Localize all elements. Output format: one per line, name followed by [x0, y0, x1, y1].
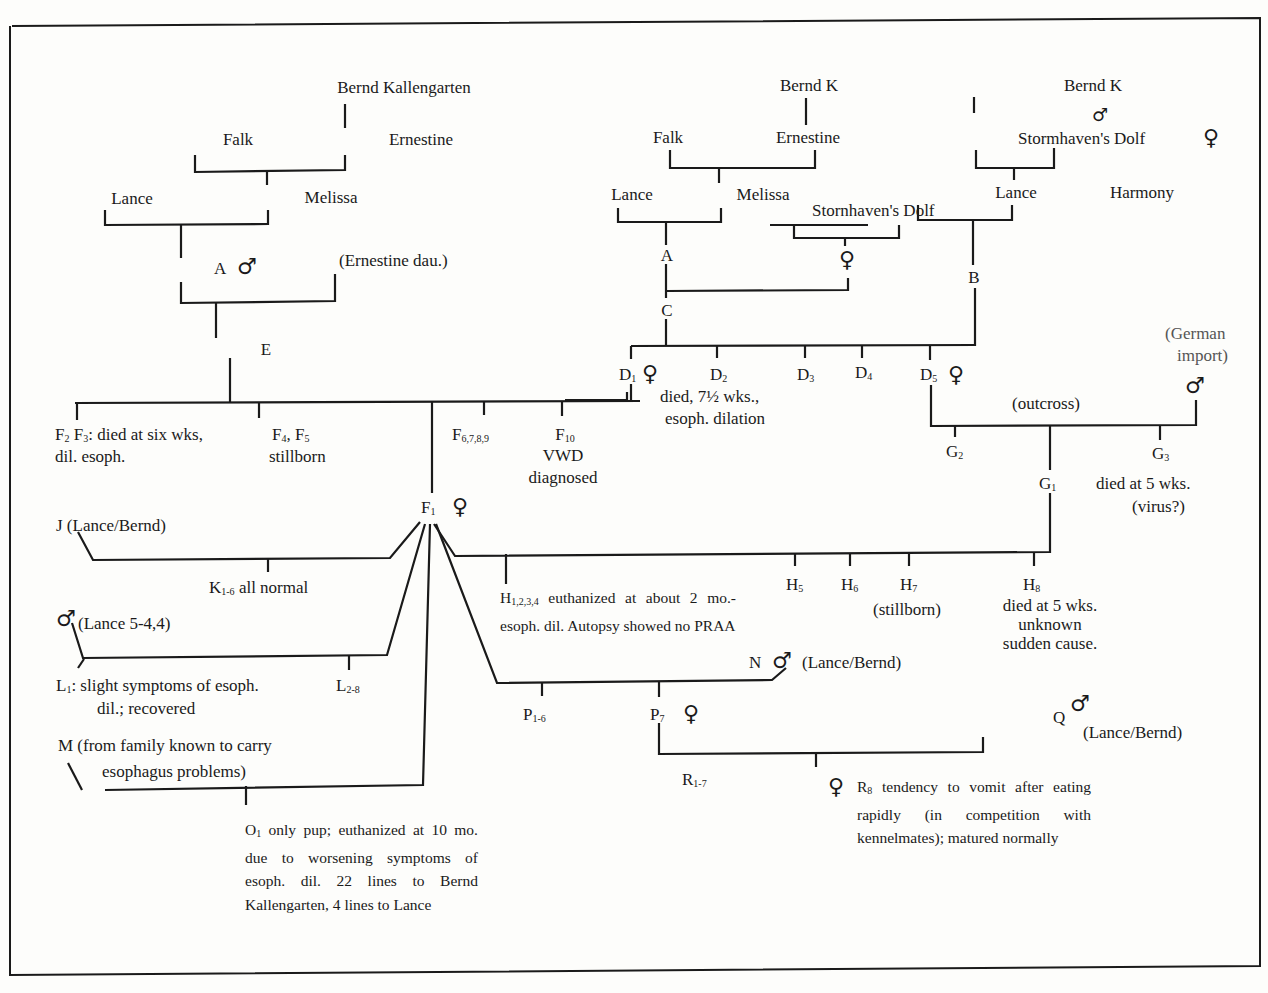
f10-note: VWD [543, 446, 584, 466]
g3-note: died at 5 wks. [1096, 474, 1190, 494]
node-lance-right: Lance [995, 183, 1037, 203]
node-g3: G3 [1152, 444, 1169, 468]
node-r1-7: R1-7 [682, 770, 707, 794]
node-g2: G2 [946, 442, 963, 466]
node-a-left: A [214, 259, 226, 279]
node-p7: P7 [650, 705, 664, 729]
node-f4-f5: F4, F5 [272, 425, 309, 449]
node-d5: D5 [920, 365, 937, 389]
female-icon: ♀ [642, 363, 658, 385]
male-icon: ♂ [237, 256, 257, 278]
mate-n: N [749, 653, 761, 673]
f2-f3-note: dil. esoph. [55, 447, 125, 467]
node-h7: H7 [900, 575, 917, 599]
node-ernestine-daughter: (Ernestine dau.) [339, 251, 448, 271]
node-h6: H6 [841, 575, 858, 599]
node-h1-4: H1,2,3,4 euthanized at about 2 mo.- esop… [500, 586, 736, 637]
node-lance-middle: Lance [611, 185, 653, 205]
node-a-middle: A [661, 246, 673, 266]
male-icon: ♂ [56, 608, 76, 630]
female-icon: ♀ [839, 249, 855, 271]
node-g1: G1 [1039, 474, 1056, 498]
german-import-label: import) [1177, 346, 1228, 366]
node-d3: D3 [797, 365, 814, 389]
node-stormhavens-dolf: Stormhaven's Dolf [1018, 129, 1145, 149]
german-import-label: (German [1165, 324, 1225, 344]
node-l2-8: L2-8 [336, 676, 360, 700]
female-icon: ♀ [452, 496, 468, 518]
node-stornhavens-dolf: Stornhaven's Dolf [812, 201, 935, 221]
node-f6-9: F6,7,8,9 [452, 425, 489, 449]
node-b: B [968, 268, 979, 288]
outcross-label: (outcross) [1012, 394, 1080, 414]
female-icon: ♀ [948, 364, 964, 386]
node-d4: D4 [855, 363, 872, 387]
node-c: C [661, 301, 672, 321]
mate-m: M (from family known to carry [58, 736, 272, 756]
d2-note: esoph. dilation [665, 409, 765, 429]
node-d1: D1 [619, 365, 636, 389]
node-ernestine-left: Ernestine [389, 130, 453, 150]
node-f2-f3: F2 F3: died at six wks, [55, 425, 203, 449]
node-e: E [261, 340, 271, 360]
mate-j: J (Lance/Bernd) [56, 516, 166, 536]
female-icon: ♀ [683, 703, 699, 725]
mate-n-note: (Lance/Bernd) [802, 653, 901, 673]
node-k1-6: K1-6 all normal [209, 578, 308, 602]
node-h5: H5 [786, 575, 803, 599]
node-p1-6: P1-6 [523, 705, 546, 729]
mate-q-note: (Lance/Bernd) [1083, 723, 1182, 743]
mate-m: esophagus problems) [102, 762, 246, 782]
node-r8: R8 tendency to vomit after eating rapidl… [857, 775, 1091, 850]
h7-note: (stillborn) [873, 600, 941, 620]
node-ernestine-middle: Ernestine [776, 128, 840, 148]
female-icon: ♀ [1203, 127, 1219, 149]
node-o1: O1 only pup; euthanized at 10 mo. due to… [245, 818, 478, 916]
h8-note: unknown [1018, 615, 1081, 634]
node-melissa-left: Melissa [305, 188, 358, 208]
node-bernd-k-middle: Bernd K [780, 76, 838, 96]
node-harmony: Harmony [1110, 183, 1174, 203]
female-icon: ♀ [828, 776, 844, 798]
d2-note: died, 7½ wks., [660, 387, 759, 407]
node-l1: L1: slight symptoms of esoph. [56, 676, 259, 700]
node-f1: F1 [421, 498, 435, 522]
l1-note: dil.; recovered [97, 699, 195, 719]
node-falk-middle: Falk [653, 128, 683, 148]
node-falk-left: Falk [223, 130, 253, 150]
male-icon: ♂ [1070, 693, 1090, 715]
f4-f5-note: stillborn [269, 447, 326, 467]
node-bernd-k-right: Bernd K [1064, 76, 1122, 96]
node-bernd-kallengarten-left: Bernd Kallengarten [337, 78, 471, 98]
mate-q: Q [1053, 708, 1065, 728]
male-icon: ♂ [772, 650, 792, 672]
node-melissa-middle: Melissa [737, 185, 790, 205]
mate-l-sire: (Lance 5-4,4) [78, 614, 171, 634]
male-icon: ♂ [1185, 375, 1205, 397]
h8-note: died at 5 wks. [1003, 596, 1097, 615]
node-d2: D2 [710, 365, 727, 389]
h8-note: sudden cause. [1003, 634, 1097, 653]
g3-note: (virus?) [1132, 497, 1185, 517]
node-lance-left: Lance [111, 189, 153, 209]
f10-note: diagnosed [529, 468, 598, 488]
male-icon: ♂ [1092, 104, 1108, 126]
